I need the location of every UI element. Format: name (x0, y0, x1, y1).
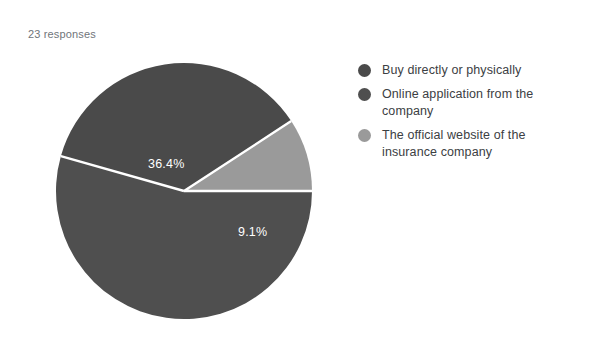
legend-item-online-application[interactable]: Online application from the company (358, 86, 588, 120)
pie-label-buy-directly: 36.4% (148, 157, 184, 171)
legend-bullet-icon (358, 64, 371, 77)
legend-item-label: Buy directly or physically (382, 62, 521, 79)
pie-svg (55, 62, 313, 320)
legend-item-label: Online application from the company (382, 86, 560, 120)
legend-bullet-icon (358, 88, 371, 101)
pie-chart-graphic: 36.4% 54.5% 9.1% (55, 62, 313, 320)
legend-item-label: The official website of the insurance co… (382, 127, 560, 161)
responses-count-label: 23 responses (28, 28, 96, 40)
legend-item-official-website[interactable]: The official website of the insurance co… (358, 127, 588, 161)
legend-bullet-icon (358, 129, 371, 142)
pie-label-official-website: 9.1% (238, 225, 267, 239)
legend-item-buy-directly[interactable]: Buy directly or physically (358, 62, 588, 79)
chart-legend: Buy directly or physically Online applic… (358, 62, 588, 168)
pie-chart-card: 23 responses 36.4% 54.5% 9.1% Buy direct… (0, 0, 602, 337)
